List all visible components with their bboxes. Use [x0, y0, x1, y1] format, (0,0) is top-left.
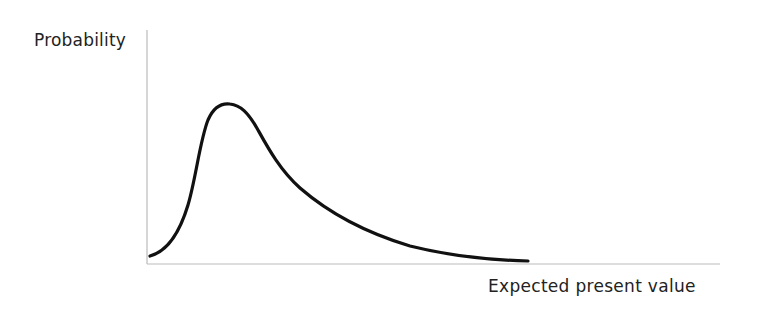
x-axis-label: Expected present value: [488, 276, 696, 296]
y-axis-label: Probability: [34, 30, 126, 50]
probability-curve: [150, 104, 528, 261]
